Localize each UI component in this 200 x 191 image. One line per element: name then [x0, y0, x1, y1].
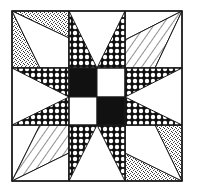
corner-bottom-left — [12, 125, 69, 181]
star-point-bottom — [69, 125, 125, 181]
center-four-patch — [69, 68, 125, 125]
star-point-top — [69, 11, 125, 68]
corner-top-right — [125, 11, 182, 68]
center-quadrant-bottom-right — [97, 97, 125, 125]
star-point-left — [12, 68, 69, 125]
center-quadrant-bottom-left — [69, 97, 97, 125]
corner-top-left — [12, 11, 69, 68]
center-quadrant-top-left — [69, 68, 97, 97]
corner-bottom-right — [125, 125, 182, 181]
center-quadrant-top-right — [97, 68, 125, 97]
quilt-block-svg — [0, 0, 200, 191]
quilt-block-figure: Quilt block pattern — [0, 0, 200, 191]
star-point-right — [125, 68, 182, 125]
